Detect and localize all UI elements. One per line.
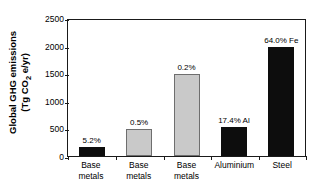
bar-value-label: 17.4% Al [218, 116, 250, 125]
bar-group[interactable]: 64.0% Fe [258, 20, 305, 156]
bar[interactable] [174, 74, 200, 156]
x-axis-category-word: Base [115, 160, 163, 171]
bar[interactable] [126, 129, 152, 156]
y-axis-tick-mark [65, 48, 69, 49]
y-axis-title-line1: Global GHG emissions [7, 31, 18, 134]
x-axis-category-word: Aluminium [210, 160, 258, 171]
y-axis-tick-mark [65, 20, 69, 21]
y-axis-tick-mark [65, 103, 69, 104]
y-axis-tick-label: 2500 [34, 15, 64, 24]
y-axis-title-unit-post: e/yr) [18, 53, 29, 76]
bar-group[interactable]: 5.2% [68, 20, 115, 156]
x-axis-category-word: metals [67, 171, 115, 182]
y-axis-title-unit-pre: (Tg CO [18, 80, 29, 112]
y-axis-title-unit-subscript: 2 [23, 76, 32, 80]
x-axis-category-label: Steel [258, 160, 306, 194]
bar-group[interactable]: 17.4% Al [210, 20, 257, 156]
y-axis-tick-label: 2000 [34, 42, 64, 51]
x-axis-category-word: Steel [258, 160, 306, 171]
y-axis-tick-label: 1000 [34, 97, 64, 106]
bar[interactable] [79, 147, 105, 156]
plot-area: 5.2%0.5%0.2%17.4% Al64.0% Fe [67, 19, 306, 157]
x-axis-category-word: Base [163, 160, 211, 171]
x-axis-category-word: metals [163, 171, 211, 182]
bar[interactable] [221, 127, 247, 156]
x-axis-category-label: Aluminium [210, 160, 258, 194]
x-axis-category-labels: BasemetalsBasemetalsBasemetalsAluminiumS… [67, 160, 306, 194]
bar-group[interactable]: 0.5% [115, 20, 162, 156]
y-axis-tick-labels: 25002000150010005000 [32, 0, 64, 195]
y-axis-tick-label: 1500 [34, 70, 64, 79]
x-axis-tick-mark [306, 156, 307, 160]
x-axis-category-label: Basemetals [67, 160, 115, 194]
bar-value-label: 0.2% [177, 63, 195, 72]
y-axis-tick-label: 500 [34, 125, 64, 134]
y-axis-tick-mark [65, 75, 69, 76]
x-axis-category-label: Basemetals [163, 160, 211, 194]
bar-group[interactable]: 0.2% [163, 20, 210, 156]
bar-value-label: 0.5% [130, 118, 148, 127]
bar[interactable] [268, 47, 294, 156]
bar-value-label: 5.2% [83, 136, 101, 145]
x-axis-category-label: Basemetals [115, 160, 163, 194]
bar-series: 5.2%0.5%0.2%17.4% Al64.0% Fe [68, 20, 305, 156]
y-axis-tick-mark [65, 130, 69, 131]
bar-chart-figure: Global GHG emissions (Tg CO2 e/yr) 25002… [0, 0, 320, 195]
x-axis-category-word: Base [67, 160, 115, 171]
x-axis-category-word: metals [115, 171, 163, 182]
bar-value-label: 64.0% Fe [264, 36, 298, 45]
y-axis-tick-label: 0 [34, 153, 64, 162]
